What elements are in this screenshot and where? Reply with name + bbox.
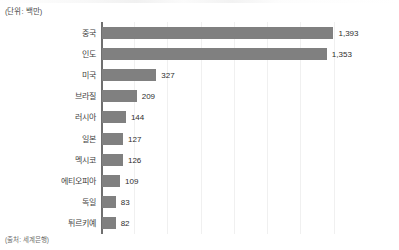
category-label: 일본 bbox=[82, 133, 96, 144]
bar-value-label: 127 bbox=[128, 133, 141, 144]
bar[interactable] bbox=[102, 111, 126, 123]
source-note: (출처: 세계은행) bbox=[5, 235, 49, 244]
bar[interactable] bbox=[102, 27, 333, 39]
bar[interactable] bbox=[102, 196, 116, 208]
bar-value-label: 209 bbox=[142, 91, 155, 102]
bar-value-label: 144 bbox=[131, 112, 144, 123]
category-label: 멕시코 bbox=[75, 154, 96, 165]
category-label: 독일 bbox=[82, 197, 96, 208]
bar-row: 러시아144 bbox=[0, 107, 399, 128]
category-label: 중국 bbox=[82, 27, 96, 38]
bar[interactable] bbox=[102, 217, 116, 229]
bar-value-label: 1,393 bbox=[338, 27, 358, 38]
bar-row: 에티오피아109 bbox=[0, 170, 399, 191]
bar-value-label: 327 bbox=[161, 69, 174, 80]
bar-rows: 중국1,393인도1,353미국327브라질209러시아144일본127멕시코1… bbox=[0, 0, 399, 250]
bar-chart: (단위: 백만) 중국1,393인도1,353미국327브라질209러시아144… bbox=[0, 0, 399, 250]
bar-value-label: 82 bbox=[121, 218, 130, 229]
bar-value-label: 126 bbox=[128, 154, 141, 165]
bar-row: 멕시코126 bbox=[0, 149, 399, 170]
bar[interactable] bbox=[102, 90, 137, 102]
bar-row: 일본127 bbox=[0, 128, 399, 149]
bar[interactable] bbox=[102, 133, 123, 145]
category-label: 미국 bbox=[82, 69, 96, 80]
bar[interactable] bbox=[102, 154, 123, 166]
bar-row: 미국327 bbox=[0, 64, 399, 85]
bar[interactable] bbox=[102, 175, 120, 187]
bar[interactable] bbox=[102, 48, 327, 60]
category-label: 브라질 bbox=[75, 91, 96, 102]
bar-value-label: 109 bbox=[125, 175, 138, 186]
bar-row: 튀르키예82 bbox=[0, 213, 399, 234]
bar-row: 독일83 bbox=[0, 192, 399, 213]
category-label: 튀르키예 bbox=[68, 218, 96, 229]
category-label: 에티오피아 bbox=[61, 175, 96, 186]
bar-value-label: 1,353 bbox=[332, 48, 352, 59]
bar-value-label: 83 bbox=[121, 197, 130, 208]
bar-row: 중국1,393 bbox=[0, 22, 399, 43]
bar[interactable] bbox=[102, 69, 156, 81]
bar-row: 인도1,353 bbox=[0, 43, 399, 64]
bar-row: 브라질209 bbox=[0, 86, 399, 107]
category-label: 러시아 bbox=[75, 112, 96, 123]
category-label: 인도 bbox=[82, 48, 96, 59]
